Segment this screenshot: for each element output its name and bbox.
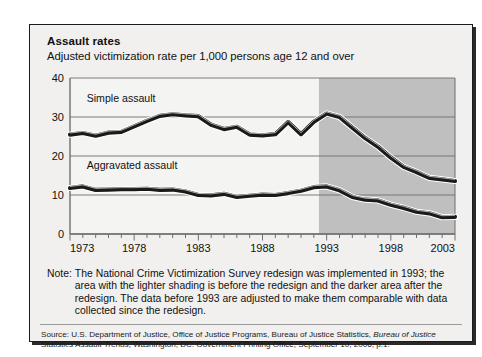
y-axis-tick-label: 30 — [52, 111, 64, 123]
page-title: Assault rates — [47, 35, 457, 47]
figure-panel: Assault rates Adjusted victimization rat… — [0, 0, 482, 357]
line-chart: 0102030401973197819831988199319982003Sim… — [43, 66, 458, 266]
x-axis-tick-label: 1998 — [379, 242, 403, 254]
chart-header: Assault rates Adjusted victimization rat… — [47, 35, 457, 62]
source-block: Source: U.S. Department of Justice, Offi… — [41, 330, 459, 350]
source-text: Source: U.S. Department of Justice, Offi… — [41, 330, 459, 350]
series-label: Simple assault — [87, 92, 156, 104]
note-label: Note: — [47, 268, 75, 318]
chart-subtitle: Adjusted victimization rate per 1,000 pe… — [47, 50, 457, 62]
y-axis-tick-label: 40 — [52, 72, 64, 84]
x-axis-tick-label: 1983 — [186, 242, 210, 254]
x-axis-tick-label: 1978 — [122, 242, 146, 254]
panel-frame: Assault rates Adjusted victimization rat… — [29, 24, 473, 342]
section-divider — [40, 324, 462, 325]
source-suffix: , Washington, DC: Government Printing Of… — [129, 340, 390, 349]
note-text: The National Crime Victimization Survey … — [75, 268, 457, 318]
y-axis-tick-label: 0 — [58, 228, 64, 240]
source-prefix: Source: U.S. Department of Justice, Offi… — [41, 330, 373, 339]
x-axis-tick-label: 1973 — [70, 242, 94, 254]
y-axis-tick-label: 10 — [52, 189, 64, 201]
x-axis-tick-label: 2003 — [431, 242, 455, 254]
x-axis-tick-label: 1993 — [314, 242, 338, 254]
x-axis-tick-label: 1988 — [250, 242, 274, 254]
series-label: Aggravated assault — [87, 159, 178, 171]
chart-plot-area: 0102030401973197819831988199319982003Sim… — [43, 66, 458, 266]
note-block: Note: The National Crime Victimization S… — [47, 268, 457, 318]
y-axis-tick-label: 20 — [52, 150, 64, 162]
